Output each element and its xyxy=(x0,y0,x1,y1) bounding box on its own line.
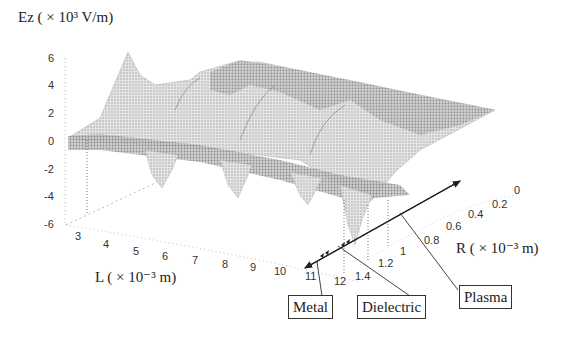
svg-text:2: 2 xyxy=(48,107,54,119)
svg-text:6: 6 xyxy=(48,52,54,64)
svg-text:0.2: 0.2 xyxy=(492,198,507,210)
y-ticks: 0 0.2 0.4 0.6 0.8 1 1.2 1.4 xyxy=(355,184,520,282)
svg-text:-4: -4 xyxy=(44,190,54,202)
svg-text:4: 4 xyxy=(48,79,54,91)
svg-text:0.6: 0.6 xyxy=(446,220,461,232)
svg-text:6: 6 xyxy=(162,250,168,262)
svg-text:0: 0 xyxy=(48,135,54,147)
svg-text:1: 1 xyxy=(400,245,406,257)
metal-annotation: Metal xyxy=(288,295,333,319)
metal-leader xyxy=(317,262,322,296)
floor-diagonal xyxy=(66,176,170,225)
svg-text:9: 9 xyxy=(250,261,256,273)
svg-text:10: 10 xyxy=(274,265,286,277)
svg-text:5: 5 xyxy=(133,245,139,257)
svg-text:0.8: 0.8 xyxy=(424,234,439,246)
svg-text:-2: -2 xyxy=(44,163,54,175)
svg-text:0: 0 xyxy=(514,184,520,196)
z-axis-label: Ez ( × 10³ V/m) xyxy=(18,9,113,26)
svg-text:-6: -6 xyxy=(44,218,54,230)
trough-4 xyxy=(340,185,372,245)
svg-text:4: 4 xyxy=(103,238,109,250)
svg-text:11: 11 xyxy=(305,270,316,282)
plasma-annotation: Plasma xyxy=(459,285,512,309)
z-ticks: 6 4 2 0 -2 -4 -6 xyxy=(44,52,54,230)
dielectric-annotation: Dielectric xyxy=(357,295,426,319)
x-axis-label: L ( × 10⁻³ m) xyxy=(95,269,176,286)
svg-text:7: 7 xyxy=(192,254,198,266)
svg-text:8: 8 xyxy=(222,258,228,270)
trough-2 xyxy=(220,160,252,198)
trough-1 xyxy=(145,150,178,188)
svg-text:1.4: 1.4 xyxy=(355,270,370,282)
svg-text:12: 12 xyxy=(334,275,346,287)
svg-text:0.4: 0.4 xyxy=(468,208,483,220)
svg-text:1.2: 1.2 xyxy=(378,257,393,269)
svg-text:3: 3 xyxy=(75,230,81,242)
y-axis-label: R ( × 10⁻³ m) xyxy=(456,240,539,257)
